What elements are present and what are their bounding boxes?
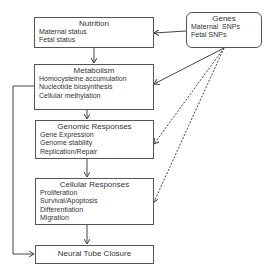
arrow-genes-nutrition <box>154 31 186 33</box>
box-title: Genomic Responses <box>40 122 149 131</box>
box-title: Nutrition <box>39 19 149 28</box>
box-item: Survival/Apoptosis <box>40 197 149 205</box>
box-item: Differentiation <box>40 206 149 214</box>
box-title: Cellular Responses <box>40 180 149 189</box>
neural-tube-closure-box: Neural Tube Closure <box>35 245 154 264</box>
box-item: Homocysteine accumulation <box>39 75 149 83</box>
genes-box: Genes Maternal SNPs Fetal SNPs <box>186 12 262 48</box>
box-item: Migration <box>40 214 149 222</box>
metabolism-box: Metabolism Homocysteine accumulation Nuc… <box>34 64 154 110</box>
arrow-genes-genomic <box>154 48 224 144</box>
genomic-responses-box: Genomic Responses Gene Expression Genome… <box>35 120 154 159</box>
box-item: Genome stability <box>40 139 149 147</box>
box-item: Nucleotide biosynthesis <box>39 83 149 91</box>
arrow-metabolism-ntc <box>13 86 34 254</box>
box-title: Metabolism <box>39 66 149 75</box>
box-item: Replication/Repair <box>40 148 149 156</box>
box-title: Neural Tube Closure <box>58 250 131 258</box>
nutrition-box: Nutrition Maternal status Fetal status <box>34 17 154 48</box>
cellular-responses-box: Cellular Responses Proliferation Surviva… <box>35 178 154 225</box>
box-item: Gene Expression <box>40 131 149 139</box>
box-item: Proliferation <box>40 189 149 197</box>
arrow-genes-metabolism <box>154 48 224 84</box>
box-item: Fetal SNPs <box>191 31 257 39</box>
box-item: Maternal SNPs <box>191 23 257 31</box>
box-item: Cellular methylation <box>39 92 149 100</box>
box-item: Fetal status <box>39 36 149 44</box>
arrow-genes-cellular <box>154 48 224 202</box>
box-title: Genes <box>191 14 257 23</box>
box-item: Maternal status <box>39 28 149 36</box>
